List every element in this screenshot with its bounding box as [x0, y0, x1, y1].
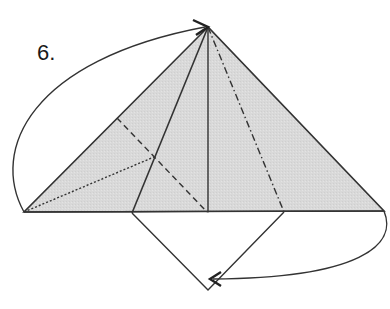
origami-diagram — [0, 0, 390, 309]
base-line — [24, 211, 384, 212]
folded-flap — [132, 212, 284, 290]
paper-triangle — [24, 27, 384, 212]
step-number-label: 6. — [37, 40, 55, 66]
